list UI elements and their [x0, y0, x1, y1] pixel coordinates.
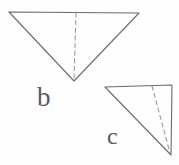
figure-label-b: b: [37, 84, 51, 111]
line-drawing: [0, 0, 179, 165]
triangle-b-dashed-line: [74, 13, 76, 80]
triangle-b-group: [9, 12, 139, 81]
triangle-c-dashed-line: [152, 86, 170, 153]
figure-label-c: c: [107, 124, 118, 148]
figure-canvas: b c: [0, 0, 179, 165]
